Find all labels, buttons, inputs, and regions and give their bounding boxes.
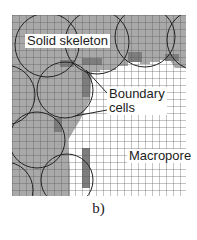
- boundary-label-line1: Boundary: [109, 87, 165, 101]
- figure-caption: b): [0, 200, 197, 217]
- macropore-label: Macropore: [127, 149, 193, 163]
- boundary-cells-label: Boundary cells: [107, 87, 167, 115]
- boundary-label-line2: cells: [109, 101, 165, 115]
- solid-skeleton-label: Solid skeleton: [25, 34, 110, 48]
